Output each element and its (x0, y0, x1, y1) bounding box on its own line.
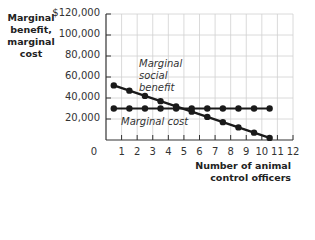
data-point (126, 105, 132, 111)
data-point (235, 105, 241, 111)
x-axis-title-1: Number of animal (195, 160, 291, 172)
x-axis-title-2: control officers (195, 172, 291, 184)
data-point (157, 105, 163, 111)
data-point (126, 87, 132, 93)
data-point (111, 82, 117, 88)
data-point (173, 105, 179, 111)
data-point (266, 135, 272, 141)
data-point (235, 124, 241, 130)
data-point (266, 105, 272, 111)
data-point (157, 98, 163, 104)
data-point (220, 105, 226, 111)
mc-annotation: Marginal cost (121, 116, 188, 128)
msb-annotation: Marginal social benefit (139, 58, 182, 94)
x-axis-title: Number of animal control officers (195, 160, 291, 184)
msb-label-3: benefit (139, 82, 182, 94)
data-point (251, 105, 257, 111)
data-point (111, 105, 117, 111)
data-point (142, 105, 148, 111)
data-point (189, 105, 195, 111)
data-point (204, 114, 210, 120)
msb-label-1: Marginal (139, 58, 182, 70)
data-point (204, 105, 210, 111)
data-point (251, 129, 257, 135)
msb-label-2: social (139, 70, 182, 82)
data-point (220, 119, 226, 125)
